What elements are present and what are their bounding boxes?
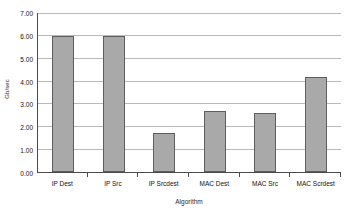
x-axis-tick-marks	[37, 173, 341, 177]
y-tick-label: 4.00	[20, 78, 33, 85]
y-tick-label: 7.00	[20, 10, 33, 17]
x-tick-mark	[189, 173, 240, 177]
y-tick-label: 2.00	[20, 124, 33, 131]
x-tick-label: MAC Scrdest	[290, 180, 341, 192]
x-axis-title: Algorithm	[37, 198, 341, 205]
bar-slot	[190, 13, 241, 172]
bars-layer	[38, 13, 341, 172]
plot-area	[37, 13, 341, 173]
bar-slot	[89, 13, 140, 172]
bar-slot	[139, 13, 190, 172]
y-tick-label: 1.00	[20, 147, 33, 154]
x-tick-label: IP Dest	[37, 180, 88, 192]
bar-chart: Gb/sec 0.001.002.003.004.005.006.007.00 …	[0, 0, 353, 222]
bar[interactable]	[254, 113, 276, 172]
x-tick-label: MAC Src	[240, 180, 291, 192]
bar[interactable]	[204, 111, 226, 172]
bar[interactable]	[52, 36, 74, 172]
bar[interactable]	[153, 133, 175, 172]
x-tick-mark	[240, 173, 291, 177]
y-axis-tick-labels: 0.001.002.003.004.005.006.007.00	[11, 13, 35, 173]
y-tick-label: 3.00	[20, 101, 33, 108]
x-tick-mark	[37, 173, 88, 177]
bar-slot	[38, 13, 89, 172]
x-tick-mark	[138, 173, 189, 177]
x-axis-tick-labels: IP DestIP SrcIP SrcdestMAC DestMAC SrcMA…	[37, 180, 341, 192]
bar[interactable]	[103, 36, 125, 172]
y-tick-label: 0.00	[20, 170, 33, 177]
x-tick-label: IP Src	[88, 180, 139, 192]
y-axis-title-text: Gb/sec	[4, 79, 10, 99]
y-tick-label: 6.00	[20, 32, 33, 39]
bar-slot	[291, 13, 342, 172]
x-tick-label: MAC Dest	[189, 180, 240, 192]
y-tick-label: 5.00	[20, 55, 33, 62]
x-tick-mark	[88, 173, 139, 177]
x-tick-mark	[290, 173, 341, 177]
bar-slot	[240, 13, 291, 172]
x-tick-label: IP Srcdest	[138, 180, 189, 192]
bar[interactable]	[305, 77, 327, 172]
